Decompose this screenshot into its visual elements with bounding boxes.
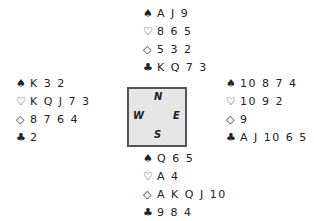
compass-south: S xyxy=(154,129,161,140)
compass-box: N W E S xyxy=(127,87,187,147)
diamond-icon: ◇ xyxy=(16,111,30,129)
diamond-icon: ◇ xyxy=(226,111,240,129)
diamond-icon: ◇ xyxy=(143,186,157,204)
north-hand: ♠A J 9 ♡8 6 5 ◇5 3 2 ♣K Q 7 3 xyxy=(143,5,208,77)
club-icon: ♣ xyxy=(16,129,30,147)
south-diamonds: ◇A K Q J 10 xyxy=(143,186,227,204)
east-diamonds: ◇9 xyxy=(226,111,308,129)
spade-icon: ♠ xyxy=(226,75,240,93)
spade-icon: ♠ xyxy=(143,5,157,23)
west-hand: ♠K 3 2 ♡K Q J 7 3 ◇8 7 6 4 ♣2 xyxy=(16,75,91,147)
heart-icon: ♡ xyxy=(143,168,157,186)
north-diamonds: ◇5 3 2 xyxy=(143,41,208,59)
east-hearts: ♡10 9 2 xyxy=(226,93,308,111)
east-clubs: ♣A J 10 6 5 xyxy=(226,129,308,147)
west-spades: ♠K 3 2 xyxy=(16,75,91,93)
compass-west: W xyxy=(133,110,144,121)
heart-icon: ♡ xyxy=(226,93,240,111)
west-diamonds: ◇8 7 6 4 xyxy=(16,111,91,129)
south-hand: ♠Q 6 5 ♡A 4 ◇A K Q J 10 ♣9 8 4 xyxy=(143,150,227,221)
east-spades: ♠10 8 7 4 xyxy=(226,75,308,93)
heart-icon: ♡ xyxy=(16,93,30,111)
club-icon: ♣ xyxy=(143,59,157,77)
south-clubs: ♣9 8 4 xyxy=(143,204,227,221)
spade-icon: ♠ xyxy=(143,150,157,168)
compass-north: N xyxy=(154,91,162,102)
north-spades: ♠A J 9 xyxy=(143,5,208,23)
heart-icon: ♡ xyxy=(143,23,157,41)
south-hearts: ♡A 4 xyxy=(143,168,227,186)
spade-icon: ♠ xyxy=(16,75,30,93)
north-clubs: ♣K Q 7 3 xyxy=(143,59,208,77)
east-hand: ♠10 8 7 4 ♡10 9 2 ◇9 ♣A J 10 6 5 xyxy=(226,75,308,147)
west-clubs: ♣2 xyxy=(16,129,91,147)
north-hearts: ♡8 6 5 xyxy=(143,23,208,41)
club-icon: ♣ xyxy=(143,204,157,221)
club-icon: ♣ xyxy=(226,129,240,147)
compass-east: E xyxy=(173,110,180,121)
south-spades: ♠Q 6 5 xyxy=(143,150,227,168)
diamond-icon: ◇ xyxy=(143,41,157,59)
west-hearts: ♡K Q J 7 3 xyxy=(16,93,91,111)
